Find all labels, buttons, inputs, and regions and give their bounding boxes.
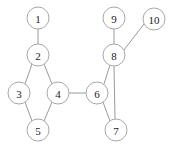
graph-node-label-3: 3 <box>16 88 22 100</box>
graph-edge-6-8 <box>104 65 110 84</box>
graph-node-6[interactable]: 6 <box>86 82 108 104</box>
graph-node-label-5: 5 <box>35 125 41 137</box>
graph-figure: 12345678910 <box>0 0 173 150</box>
graph-node-9[interactable]: 9 <box>103 7 125 29</box>
graph-edge-3-5 <box>25 102 32 121</box>
edge-layer <box>25 24 144 121</box>
graph-edge-2-3 <box>25 64 32 84</box>
graph-node-5[interactable]: 5 <box>27 119 49 141</box>
graph-node-3[interactable]: 3 <box>8 82 30 104</box>
graph-node-label-7: 7 <box>113 125 119 137</box>
graph-node-8[interactable]: 8 <box>103 44 125 66</box>
graph-node-label-1: 1 <box>35 13 41 25</box>
graph-edge-6-7 <box>103 102 110 121</box>
graph-node-1[interactable]: 1 <box>27 7 49 29</box>
graph-edge-4-5 <box>44 102 52 121</box>
graph-node-label-6: 6 <box>94 88 100 100</box>
graph-edge-2-4 <box>44 64 52 84</box>
graph-node-label-10: 10 <box>149 14 161 26</box>
graph-node-7[interactable]: 7 <box>105 119 127 141</box>
graph-canvas: 12345678910 <box>0 0 173 150</box>
graph-node-label-2: 2 <box>35 50 41 62</box>
graph-node-label-4: 4 <box>55 88 61 100</box>
graph-node-4[interactable]: 4 <box>47 82 69 104</box>
graph-edge-8-10 <box>124 24 144 50</box>
graph-node-label-8: 8 <box>111 50 117 62</box>
graph-edge-7-8 <box>114 66 115 119</box>
graph-node-2[interactable]: 2 <box>27 44 49 66</box>
graph-node-label-9: 9 <box>111 13 117 25</box>
graph-node-10[interactable]: 10 <box>143 8 165 30</box>
